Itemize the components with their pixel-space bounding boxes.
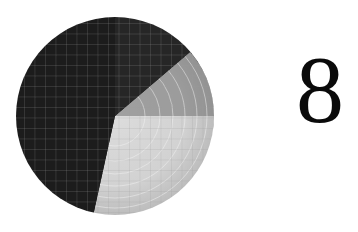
numeral-label: 8 <box>288 40 352 140</box>
radar-disc-graphic <box>0 0 230 232</box>
